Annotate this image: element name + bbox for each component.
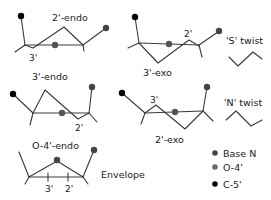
structure-2-exo: 3' 2'-exo [119, 84, 213, 145]
n-twist: 'N' twist [224, 97, 262, 126]
structure-label: 2'-exo [155, 134, 184, 145]
s-twist: 'S' twist [226, 35, 263, 66]
right-tail [83, 45, 84, 51]
c5-dot [132, 14, 138, 20]
right-tail [203, 111, 213, 121]
right-tail [199, 45, 202, 57]
ring-path [29, 161, 83, 177]
ring-path [145, 105, 203, 129]
structure-3-exo: 3'-exo 2' [128, 14, 222, 78]
legend-c5-label: C-5' [223, 179, 242, 190]
base-bond [83, 150, 94, 177]
base-n-dot [91, 147, 97, 153]
base-n-dot [103, 25, 109, 31]
c5-bond [122, 93, 145, 113]
structure-2-endo: 2'-endo 3' [15, 12, 109, 63]
legend-base-n-label: Base N [223, 148, 256, 159]
structure-3-endo: 3'-endo 2' [10, 71, 97, 133]
n-twist-zigzag [226, 111, 262, 126]
envelope-label: Envelope [101, 169, 145, 180]
base-bond [89, 87, 92, 113]
legend-c5-dot [212, 181, 218, 187]
pucker-diagram: 2'-endo 3' 3'-exo 2' 'S' twist 3'-endo 2… [0, 0, 271, 200]
o4-dot [59, 110, 65, 116]
c5-dot [119, 90, 125, 96]
base-bond [203, 87, 207, 111]
left-tail [15, 45, 25, 52]
c5-dot [18, 13, 24, 19]
structure-label: O-4'-endo [32, 140, 79, 151]
o4-dot [54, 157, 60, 163]
c5-bond [21, 16, 25, 45]
c5-bond [13, 94, 33, 113]
right-tail [83, 177, 88, 184]
left-bond [19, 152, 29, 177]
atom-label: 2' [184, 29, 192, 39]
atom-label-3: 3' [45, 184, 53, 194]
base-n-dot [216, 28, 222, 34]
c5-dot [10, 91, 16, 97]
base-bond [199, 32, 218, 45]
structure-label: 3'-endo [32, 71, 68, 82]
c5-bond [135, 17, 139, 43]
base-bond [83, 28, 106, 45]
atom-label: 2' [75, 123, 83, 133]
left-tail [141, 113, 145, 124]
atom-label-2: 2' [65, 184, 73, 194]
legend-o4-dot [212, 164, 218, 170]
structure-label: 2'-endo [52, 12, 88, 23]
structure-label: 3'-exo [143, 67, 172, 78]
left-tail [128, 43, 139, 48]
right-tail [89, 113, 97, 122]
legend-o4-label: O-4' [223, 162, 243, 173]
structure-o4-endo: O-4'-endo 3' 2' Envelope [19, 140, 145, 194]
left-tail [30, 113, 33, 125]
atom-label: 3' [150, 95, 158, 105]
s-twist-zigzag [229, 52, 262, 66]
o4-dot [166, 41, 172, 47]
base-n-dot [204, 84, 210, 90]
atom-label: 3' [29, 53, 37, 63]
legend: Base N O-4' C-5' [212, 148, 256, 190]
n-twist-label: 'N' twist [224, 97, 262, 108]
left-tail [25, 177, 29, 184]
s-twist-label: 'S' twist [226, 35, 263, 46]
o4-dot [52, 42, 58, 48]
legend-base-n-dot [212, 150, 218, 156]
base-n-dot [89, 84, 95, 90]
o4-dot [172, 109, 178, 115]
